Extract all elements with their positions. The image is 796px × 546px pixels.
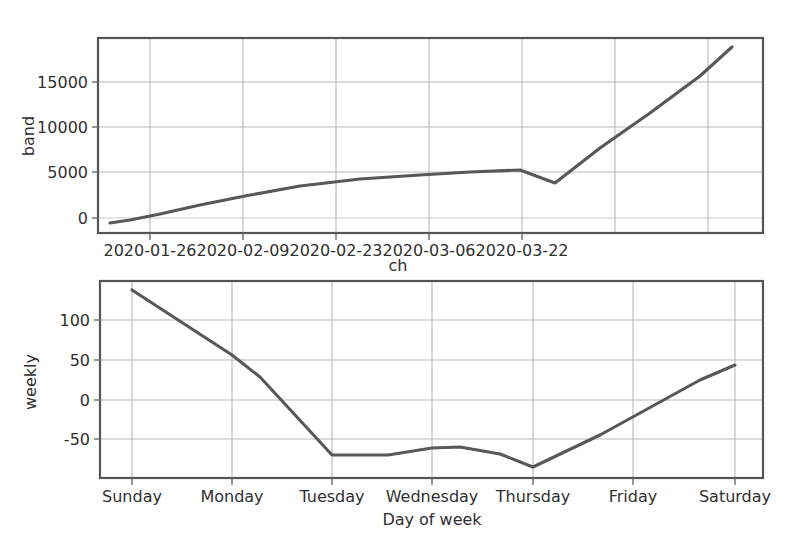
series-line-weekly (132, 290, 735, 467)
ytick-label-10000: 10000 (37, 118, 88, 137)
series-line-band (110, 47, 732, 223)
chart-panel-band: 15000 10000 5000 0 2020-01-26 2020-02-09… (0, 0, 796, 272)
xtick-label-wednesday: Wednesday (386, 487, 479, 506)
chart-panel-weekly: 100 50 0 -50 Sunday Monday Tuesday Wedne… (0, 272, 796, 546)
ytick-label-100: 100 (59, 311, 90, 330)
chart-svg-weekly: 100 50 0 -50 Sunday Monday Tuesday Wedne… (0, 272, 796, 546)
figure-canvas: 15000 10000 5000 0 2020-01-26 2020-02-09… (0, 0, 796, 546)
xtick-label-saturday: Saturday (699, 487, 771, 506)
xtick-label-sunday: Sunday (102, 487, 162, 506)
ytick-label-50: 50 (70, 351, 90, 370)
xtick-label-tuesday: Tuesday (298, 487, 364, 506)
y-axis-label-weekly: weekly (21, 354, 40, 410)
xtick-label-friday: Friday (609, 487, 658, 506)
xtick-label-2020-03-22: 2020-03-22 (476, 241, 569, 260)
y-axis-label-band: band (19, 116, 38, 156)
xtick-label-2020-02-23: 2020-02-23 (290, 241, 383, 260)
xtick-label-monday: Monday (200, 487, 263, 506)
chart-svg-band: 15000 10000 5000 0 2020-01-26 2020-02-09… (0, 0, 796, 272)
xtick-label-2020-02-09: 2020-02-09 (197, 241, 290, 260)
xtick-label-2020-01-26: 2020-01-26 (104, 241, 197, 260)
ytick-label-15000: 15000 (37, 73, 88, 92)
ytick-label-5000: 5000 (47, 163, 88, 182)
gridlines-vertical-band (150, 38, 708, 233)
ytick-label-0: 0 (80, 391, 90, 410)
x-axis-label-day-of-week: Day of week (382, 510, 482, 529)
ytick-label-minus50: -50 (64, 430, 90, 449)
x-axis-label-ch: ch (389, 256, 408, 272)
ytick-label-0: 0 (78, 209, 88, 228)
axis-frame-band (98, 38, 763, 233)
xtick-label-thursday: Thursday (495, 487, 570, 506)
